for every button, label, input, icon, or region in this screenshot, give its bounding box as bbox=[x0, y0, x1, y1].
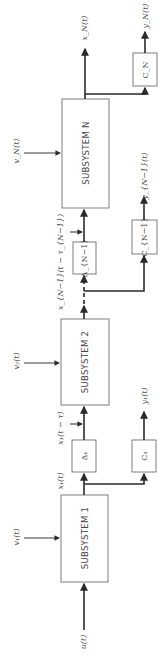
delta1-label: Δ₁ bbox=[80, 452, 89, 461]
yN1-label: y_{N−1}(t) bbox=[140, 153, 149, 201]
u-input-label: u(t) bbox=[79, 635, 88, 650]
c1-label: C₁ bbox=[140, 451, 149, 460]
subsystem-1-label: SUBSYSTEM 1 bbox=[80, 507, 90, 570]
deltaN1-label: Δ_{N−1} bbox=[80, 239, 89, 278]
v1-label: v₁(t) bbox=[12, 528, 21, 545]
xN-label: x_N(t) bbox=[80, 16, 89, 41]
x1-label: x₁(t) bbox=[56, 472, 65, 489]
subsystem-2-label: SUBSYSTEM 2 bbox=[80, 331, 90, 394]
delay-block-n-minus-1: Δ_{N−1} bbox=[73, 239, 96, 278]
yN-label: y_N(t) bbox=[141, 4, 150, 30]
output-block-c1: C₁ bbox=[132, 440, 156, 472]
v2-label: v₂(t) bbox=[12, 352, 21, 369]
delay-block-1: Δ₁ bbox=[72, 440, 96, 472]
cN1-label: C_{N−1} bbox=[140, 217, 149, 256]
x1-delayed-label: x₁(t − τ) bbox=[56, 411, 65, 444]
xN-to-cN-arrow bbox=[85, 88, 145, 94]
subsystem-n-block: SUBSYSTEM N bbox=[62, 99, 109, 208]
cascade-subsystem-diagram: SUBSYSTEM 1 u(t) v₁(t) x₁(t) Δ₁ C₁ y₁(t)… bbox=[0, 0, 166, 657]
subsystem-2-block: SUBSYSTEM 2 bbox=[61, 319, 109, 405]
y1-label: y₁(t) bbox=[140, 387, 149, 405]
subsystem-n-label: SUBSYSTEM N bbox=[81, 121, 91, 185]
vN-label: v_N(t) bbox=[12, 139, 21, 164]
subsystem-1-block: SUBSYSTEM 1 bbox=[61, 495, 108, 582]
cN-label: C_N bbox=[141, 61, 150, 78]
x1-to-c1-arrow bbox=[84, 474, 144, 484]
output-block-cN: C_N bbox=[133, 53, 157, 86]
xN1-delayed-label: x_{N−1}(t − τ_{N−1}) bbox=[56, 214, 65, 310]
output-block-c-n-minus-1: C_{N−1} bbox=[132, 217, 157, 256]
